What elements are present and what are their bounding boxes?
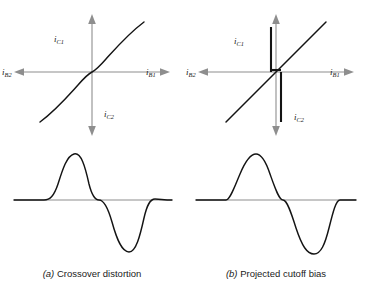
- label-ib1: iB1: [146, 67, 156, 78]
- label-ic1: iC1: [54, 34, 64, 45]
- waveform-svg-a: [0, 148, 184, 266]
- transfer-plot-a: iC1 iC2 iB1 iB2: [0, 0, 184, 148]
- horizontal-axis-right-arrow-icon: [160, 68, 170, 76]
- caption-a-text: Crossover distortion: [57, 268, 141, 279]
- waveform-curve-crossover: [14, 154, 172, 252]
- horizontal-axis-left-arrow-icon: [198, 68, 208, 76]
- waveform-plot-b: [184, 148, 368, 266]
- label-ic2: iC2: [104, 109, 115, 120]
- label-ic1: iC1: [234, 36, 244, 47]
- waveform-curve-undistorted: [196, 154, 356, 254]
- horizontal-axis-right-arrow-icon: [344, 68, 354, 76]
- transfer-plot-b: iC1 iC2 iB1 iB2: [184, 0, 368, 148]
- caption-a: (a) Crossover distortion: [0, 268, 184, 280]
- waveform-plot-a: [0, 148, 184, 266]
- label-ib2: iB2: [2, 67, 12, 78]
- horizontal-axis-left-arrow-icon: [14, 68, 24, 76]
- waveform-svg-b: [184, 148, 368, 266]
- label-ic2: iC2: [294, 112, 305, 123]
- vertical-axis-up-arrow-icon: [88, 14, 96, 24]
- label-ib1: iB1: [330, 67, 340, 78]
- caption-a-tag: (a): [43, 268, 55, 279]
- transfer-svg-a: iC1 iC2 iB1 iB2: [0, 0, 184, 148]
- vertical-axis-down-arrow-icon: [272, 126, 280, 136]
- label-ib2: iB2: [186, 67, 196, 78]
- figure-container: iC1 iC2 iB1 iB2 (a) Crossover dist: [0, 0, 368, 295]
- caption-b: (b) Projected cutoff bias: [184, 268, 368, 280]
- vertical-axis-down-arrow-icon: [88, 126, 96, 136]
- transfer-svg-b: iC1 iC2 iB1 iB2: [184, 0, 368, 148]
- vertical-axis-up-arrow-icon: [272, 14, 280, 24]
- caption-b-tag: (b): [226, 268, 238, 279]
- panel-a: iC1 iC2 iB1 iB2 (a) Crossover dist: [0, 0, 184, 295]
- caption-b-text: Projected cutoff bias: [240, 268, 326, 279]
- panel-b: iC1 iC2 iB1 iB2 (b) Projected cuto: [184, 0, 368, 295]
